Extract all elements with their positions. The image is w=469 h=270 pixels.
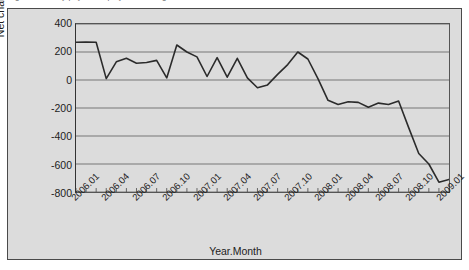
y-axis-title: Net change in jobs (000) (0, 0, 6, 55)
line-series-svg (76, 24, 449, 192)
y-axis-tick-label: 0 (30, 74, 72, 86)
y-axis-tick-label: -800 (30, 187, 72, 199)
y-axis-tick-label: -600 (30, 159, 72, 171)
y-axis-tick-labels: 4002000-200-400-600-800 (22, 23, 72, 193)
gridlines (76, 24, 449, 192)
x-axis-tick-labels: 2006.012006.042006.072006.102007.012007.… (75, 195, 452, 251)
y-axis-tick-label: -200 (30, 102, 72, 114)
y-axis-tick-label: -400 (30, 130, 72, 142)
x-axis-title: Year.Month (8, 245, 463, 257)
plot-area (75, 23, 450, 193)
chart-screenshot: Figure: monthly payroll employment chang… (0, 0, 469, 270)
chart-frame: Net change in jobs (000) 4002000-200-400… (7, 8, 462, 260)
y-axis-tick-label: 200 (30, 45, 72, 57)
y-axis-tick-label: 400 (30, 17, 72, 29)
clipped-caption-text: Figure: monthly payroll employment chang… (8, 0, 171, 1)
net-change-in-jobs-line (76, 42, 449, 182)
